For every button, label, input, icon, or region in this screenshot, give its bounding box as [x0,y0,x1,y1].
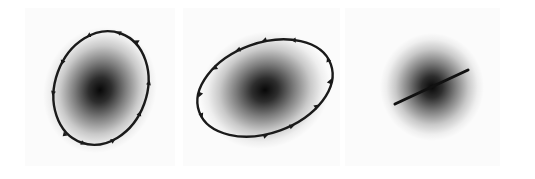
panel-middle [182,13,349,167]
polarization-diagram [0,0,535,179]
intensity-spot-middle [183,13,347,167]
panel-right [380,33,484,141]
panel-left [25,11,174,170]
